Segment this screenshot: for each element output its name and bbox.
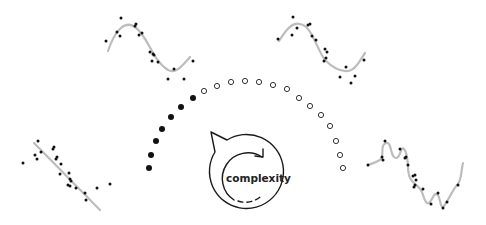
arrow-head-icon: [255, 149, 263, 157]
hollow-dot: [256, 79, 261, 84]
panel-overfit-wiggly: [367, 140, 464, 210]
data-point: [442, 207, 445, 210]
data-point: [414, 174, 417, 177]
data-point: [437, 192, 440, 195]
data-point: [119, 35, 122, 38]
data-point: [68, 172, 71, 175]
data-point: [192, 60, 195, 63]
data-point: [350, 82, 353, 85]
data-point: [53, 146, 56, 149]
panel-good-fit-left: [105, 17, 195, 81]
data-point: [22, 162, 25, 165]
data-point: [70, 180, 73, 183]
data-point: [399, 148, 402, 151]
hollow-dot: [318, 112, 323, 117]
hollow-dot: [337, 152, 342, 157]
filled-dot: [190, 95, 196, 101]
hollow-dot: [296, 95, 301, 100]
hollow-dot: [214, 83, 219, 88]
data-point: [407, 164, 410, 167]
filled-dot: [153, 138, 159, 144]
data-point: [324, 48, 327, 51]
complexity-diagram: complexity: [0, 0, 486, 225]
data-point: [36, 158, 39, 161]
data-point: [384, 140, 387, 143]
data-point: [413, 186, 416, 189]
data-point: [67, 184, 70, 187]
panel-good-fit-right: [277, 16, 366, 85]
data-point: [339, 76, 342, 79]
data-point: [354, 75, 357, 78]
data-point: [382, 159, 385, 162]
filled-dot: [146, 165, 152, 171]
data-point: [37, 140, 40, 143]
data-point: [141, 32, 144, 35]
data-point: [405, 156, 408, 159]
fit-curve: [34, 143, 100, 210]
data-point: [292, 16, 295, 19]
data-point: [151, 60, 154, 63]
data-point: [315, 39, 318, 42]
data-point: [105, 40, 108, 43]
data-point: [34, 154, 37, 157]
complexity-label: complexity: [226, 172, 291, 184]
data-point: [309, 23, 312, 26]
data-point: [59, 173, 62, 176]
data-point: [446, 201, 449, 204]
filled-dot: [168, 114, 174, 120]
data-point: [326, 51, 329, 54]
data-point: [138, 34, 141, 37]
hollow-dot: [333, 138, 338, 143]
hollow-dot: [307, 103, 312, 108]
filled-dot: [148, 152, 154, 158]
data-point: [84, 192, 87, 195]
data-point: [135, 23, 138, 26]
hollow-dot: [327, 123, 332, 128]
data-point: [381, 156, 384, 159]
data-point: [457, 184, 460, 187]
data-point: [40, 151, 43, 154]
hollow-dot: [284, 86, 289, 91]
data-point: [323, 60, 326, 63]
data-point: [325, 57, 328, 60]
fit-curve: [108, 25, 190, 71]
hollow-dot: [270, 82, 275, 87]
data-point: [296, 27, 299, 30]
filled-dot: [159, 126, 165, 132]
data-point: [173, 68, 176, 71]
data-point: [157, 61, 160, 64]
data-point: [120, 17, 123, 20]
data-point: [277, 38, 280, 41]
data-point: [183, 78, 186, 81]
data-point: [75, 187, 78, 190]
hollow-dot: [340, 165, 345, 170]
data-point: [116, 31, 119, 34]
data-point: [56, 156, 59, 159]
outer-cycle-circle: [209, 132, 283, 208]
hollow-dot: [242, 78, 247, 83]
data-point: [109, 183, 112, 186]
data-point: [96, 187, 99, 190]
hollow-dot: [201, 88, 206, 93]
data-point: [367, 164, 370, 167]
data-point: [363, 59, 366, 62]
complexity-cycle-icon: [209, 132, 283, 208]
hollow-dot: [228, 79, 233, 84]
complexity-dot-arc: [146, 78, 346, 171]
data-point: [311, 35, 314, 38]
data-point: [152, 53, 155, 56]
data-point: [60, 163, 63, 166]
filled-dot: [178, 104, 184, 110]
fit-curve: [279, 24, 365, 71]
data-point: [430, 203, 433, 206]
panel-underfit-linear: [22, 140, 112, 211]
data-point: [415, 179, 418, 182]
data-point: [422, 188, 425, 191]
data-point: [345, 66, 348, 69]
data-point: [149, 51, 152, 54]
data-point: [167, 78, 170, 81]
dashed-arc: [238, 197, 260, 202]
data-point: [85, 199, 88, 202]
data-point: [291, 34, 294, 37]
